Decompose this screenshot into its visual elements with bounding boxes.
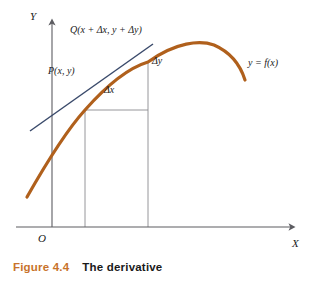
- figure-caption: Figure 4.4 The derivative: [13, 261, 303, 279]
- origin-label: O: [38, 233, 46, 244]
- secant-line-pq: [30, 44, 153, 131]
- delta-x-label: Δx: [104, 85, 114, 95]
- function-label: y = f(x): [248, 58, 278, 68]
- point-q-label: Q(x + Δx, y + Δy): [70, 25, 142, 35]
- derivative-plot: [0, 0, 316, 291]
- y-axis-label: Y: [30, 11, 36, 22]
- x-axis-label: X: [292, 238, 299, 249]
- figure-number: Figure 4.4: [13, 261, 69, 273]
- figure-title: The derivative: [82, 261, 162, 273]
- delta-y-label: Δy: [152, 56, 162, 66]
- point-p-label: P(x, y): [48, 66, 75, 76]
- figure-container: Y X O Q(x + Δx, y + Δy) P(x, y) Δy Δx y …: [0, 0, 316, 291]
